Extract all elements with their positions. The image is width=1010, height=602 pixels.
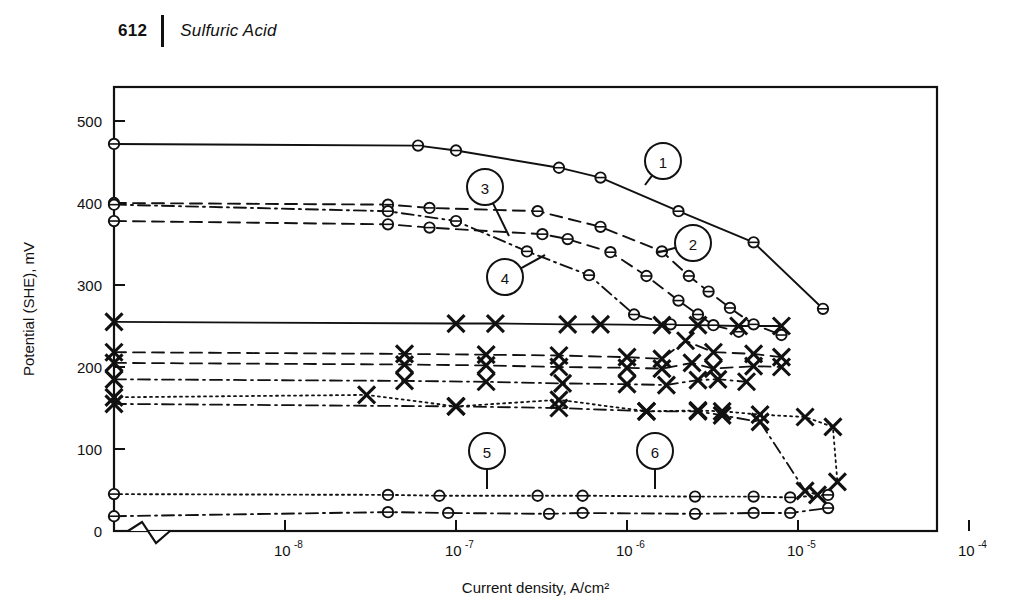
data-point-3 [537, 229, 547, 239]
data-point-9 [684, 354, 701, 371]
callout-label: 5 [483, 444, 491, 461]
data-point-4 [629, 309, 639, 319]
chart-canvas: 0100200300400500 10-810-710-610-510-4 12… [0, 0, 1010, 602]
series-line-7 [114, 322, 781, 326]
data-point-2 [684, 271, 694, 281]
callout-6[interactable]: 6 [637, 433, 673, 489]
data-point-2 [424, 203, 434, 213]
data-point-1 [109, 139, 119, 149]
tick-exponent: -5 [807, 539, 816, 550]
data-point-2 [703, 286, 713, 296]
data-point-5 [434, 491, 444, 501]
data-point-3 [673, 295, 683, 305]
data-point-4 [584, 270, 594, 280]
data-point-1 [413, 140, 423, 150]
data-point-5 [748, 491, 758, 501]
marker-cross [684, 354, 701, 371]
data-point-2 [748, 319, 758, 329]
data-point-6 [109, 511, 119, 521]
callout-label: 2 [689, 236, 697, 253]
data-point-1 [451, 145, 461, 155]
data-point-4 [383, 206, 393, 216]
data-point-4 [451, 216, 461, 226]
y-tick-label: 300 [77, 277, 102, 294]
data-point-5 [109, 489, 119, 499]
data-point-3 [708, 320, 718, 330]
x-tick-label: 10-5 [787, 539, 816, 559]
tick-exponent: -4 [978, 539, 987, 550]
marker-cross [829, 473, 846, 490]
callout-3[interactable]: 3 [467, 169, 509, 236]
plot-frame [114, 87, 937, 543]
data-point-6 [748, 508, 758, 518]
data-point-5 [690, 491, 700, 501]
polarization-chart: 0100200300400500 10-810-710-610-510-4 12… [0, 0, 1010, 602]
data-point-1 [818, 304, 828, 314]
marker-cross [773, 359, 790, 376]
axis-titles: Current density, A/cm²Potential (SHE), m… [20, 242, 609, 596]
y-tick-label: 0 [94, 523, 102, 540]
data-point-1 [595, 172, 605, 182]
series-line-9 [114, 363, 781, 369]
series-line-10 [114, 379, 747, 385]
data-point-2 [595, 222, 605, 232]
data-point-11 [797, 409, 814, 426]
series-line-6 [114, 508, 828, 516]
data-point-1 [673, 206, 683, 216]
tick-base: 10 [616, 542, 633, 559]
x-tick-label: 10-7 [445, 539, 474, 559]
data-point-8 [677, 332, 694, 349]
data-point-1 [554, 163, 564, 173]
data-point-5 [823, 490, 833, 500]
x-tick-label: 10-8 [274, 539, 303, 559]
data-point-6 [577, 508, 587, 518]
data-point-2 [532, 206, 542, 216]
y-tick-label: 500 [77, 113, 102, 130]
x-axis-title: Current density, A/cm² [462, 579, 609, 596]
data-point-4 [522, 246, 532, 256]
tick-base: 10 [445, 542, 462, 559]
y-tick-label: 400 [77, 195, 102, 212]
tick-base: 10 [958, 542, 975, 559]
data-point-3 [562, 234, 572, 244]
series-line-5 [114, 494, 828, 497]
callout-leader-line [645, 175, 652, 185]
data-point-5 [785, 492, 795, 502]
series-line-12 [114, 404, 818, 495]
plot-border [114, 87, 937, 531]
data-point-5 [532, 491, 542, 501]
series-line-1 [114, 144, 823, 309]
marker-cross [677, 332, 694, 349]
callout-label: 3 [481, 180, 489, 197]
data-point-1 [748, 237, 758, 247]
data-point-6 [785, 508, 795, 518]
callout-label: 6 [651, 444, 659, 461]
callout-4[interactable]: 4 [487, 255, 545, 295]
axis-break-symbol [128, 522, 170, 543]
data-point-3 [641, 271, 651, 281]
data-point-3 [383, 219, 393, 229]
tick-exponent: -7 [465, 539, 474, 550]
y-tick-label: 100 [77, 441, 102, 458]
y-tick-label: 200 [77, 359, 102, 376]
callout-5[interactable]: 5 [469, 433, 505, 489]
data-point-6 [383, 507, 393, 517]
x-tick-label: 10-4 [958, 539, 987, 559]
data-point-9 [773, 359, 790, 376]
callout-label: 4 [501, 270, 509, 287]
callout-1[interactable]: 1 [645, 143, 681, 185]
callout-leader-line [521, 255, 545, 268]
y-axis-title: Potential (SHE), mV [20, 242, 37, 376]
data-point-4 [109, 199, 119, 209]
data-point-5 [383, 490, 393, 500]
data-point-5 [577, 491, 587, 501]
tick-base: 10 [787, 542, 804, 559]
data-point-6 [823, 503, 833, 513]
tick-exponent: -8 [294, 539, 303, 550]
tick-base: 10 [274, 542, 291, 559]
data-point-6 [443, 508, 453, 518]
data-point-2 [725, 303, 735, 313]
callout-label: 1 [659, 154, 667, 171]
tick-exponent: -6 [636, 539, 645, 550]
x-axis-ticks: 10-810-710-610-510-4 [274, 520, 987, 559]
